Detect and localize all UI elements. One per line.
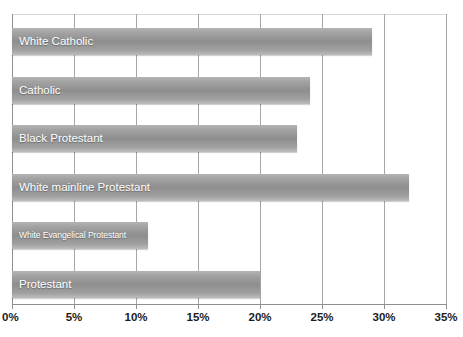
tick-mark-5pct: [74, 304, 75, 309]
x-axis-line: [12, 304, 446, 305]
bar: [12, 77, 310, 104]
x-tick-label: 10%: [124, 311, 147, 323]
bar-row: Protestant: [12, 271, 446, 298]
gridline-10pct: [136, 14, 137, 304]
x-tick-label: 25%: [310, 311, 333, 323]
tick-mark-10pct: [136, 304, 137, 309]
tick-mark-20pct: [260, 304, 261, 309]
bar: [12, 271, 260, 298]
tick-mark-0pct: [12, 304, 13, 309]
bar-row: White mainline Protestant: [12, 174, 446, 201]
gridline-35pct: [446, 14, 447, 304]
tick-mark-35pct: [446, 304, 447, 309]
gridline-0pct: [12, 14, 13, 304]
gridline-20pct: [260, 14, 261, 304]
gridline-15pct: [198, 14, 199, 304]
bar: [12, 222, 148, 249]
gridline-25pct: [322, 14, 323, 304]
bar-row: Catholic: [12, 77, 446, 104]
gridline-30pct: [384, 14, 385, 304]
bar-row: White Catholic: [12, 28, 446, 55]
bar-row: White Evangelical Protestant: [12, 222, 446, 249]
x-tick-label: 20%: [248, 311, 271, 323]
tick-mark-15pct: [198, 304, 199, 309]
tick-mark-30pct: [384, 304, 385, 309]
bar: [12, 28, 372, 55]
bar-chart: 0%5%10%15%20%25%30%35% White CatholicCat…: [0, 0, 463, 337]
bar-row: Black Protestant: [12, 125, 446, 152]
x-tick-label: 15%: [186, 311, 209, 323]
x-tick-label: 30%: [372, 311, 395, 323]
x-tick-label: 5%: [66, 311, 83, 323]
x-tick-label: 35%: [434, 311, 457, 323]
gridline-5pct: [74, 14, 75, 304]
x-tick-label: 0%: [2, 311, 19, 323]
plot-area: [12, 14, 446, 305]
tick-mark-25pct: [322, 304, 323, 309]
bar: [12, 125, 297, 152]
bar: [12, 174, 409, 201]
